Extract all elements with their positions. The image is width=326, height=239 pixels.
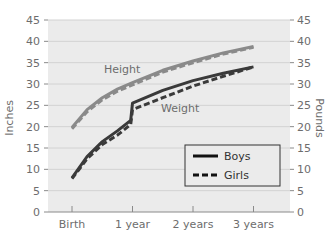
right-tick-label: 0 bbox=[297, 206, 304, 219]
x-tick-label: Birth bbox=[59, 218, 85, 231]
growth-chart: 051015202530354045 051015202530354045 Bi… bbox=[0, 0, 326, 239]
left-tick-label: 30 bbox=[26, 78, 40, 91]
left-tick-label: 45 bbox=[26, 14, 40, 27]
right-tick-label: 15 bbox=[297, 142, 311, 155]
left-tick-label: 35 bbox=[26, 57, 40, 70]
x-tick-label: 1 year bbox=[115, 218, 151, 231]
legend-boys-label: Boys bbox=[224, 150, 251, 163]
left-tick-label: 15 bbox=[26, 142, 40, 155]
right-tick-label: 40 bbox=[297, 35, 311, 48]
left-tick-label: 10 bbox=[26, 163, 40, 176]
right-tick-label: 25 bbox=[297, 99, 311, 112]
right-tick-label: 20 bbox=[297, 121, 311, 134]
left-tick-label: 20 bbox=[26, 121, 40, 134]
left-y-axis-ticks: 051015202530354045 bbox=[26, 14, 48, 219]
right-axis-title: Pounds bbox=[313, 98, 326, 138]
legend-girls-label: Girls bbox=[224, 169, 249, 182]
right-tick-label: 35 bbox=[297, 57, 311, 70]
right-tick-label: 45 bbox=[297, 14, 311, 27]
height-annotation: Height bbox=[104, 63, 141, 76]
right-tick-label: 10 bbox=[297, 163, 311, 176]
left-tick-label: 40 bbox=[26, 35, 40, 48]
right-tick-label: 30 bbox=[297, 78, 311, 91]
x-tick-label: 3 years bbox=[233, 218, 274, 231]
legend: Boys Girls bbox=[185, 145, 280, 186]
right-y-axis-ticks: 051015202530354045 bbox=[290, 14, 311, 219]
x-tick-label: 2 years bbox=[173, 218, 214, 231]
right-tick-label: 5 bbox=[297, 185, 304, 198]
left-tick-label: 0 bbox=[33, 206, 40, 219]
left-tick-label: 25 bbox=[26, 99, 40, 112]
left-tick-label: 5 bbox=[33, 185, 40, 198]
weight-annotation: Weight bbox=[161, 102, 200, 115]
left-axis-title: Inches bbox=[3, 100, 16, 136]
